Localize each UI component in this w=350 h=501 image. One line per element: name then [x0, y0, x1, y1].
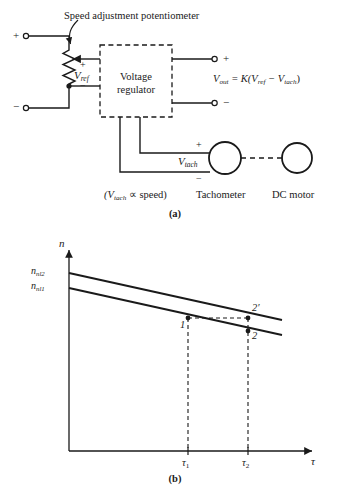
tachometer-label: Tachometer	[196, 190, 245, 201]
operating-point-2-label: 2	[252, 331, 257, 342]
note-rest-text: ∝ speed)	[126, 189, 167, 200]
panel-a-caption: (a)	[0, 209, 350, 220]
panel-b-graph	[69, 250, 312, 455]
tau2-subscript-text: 2	[246, 462, 250, 470]
operating-point-2prime	[246, 316, 251, 321]
vtach-minus-text: −	[196, 173, 202, 184]
wire-plus-to-pot	[29, 36, 69, 48]
regulator-label-line2: regulator	[117, 84, 155, 95]
operating-point-2	[246, 329, 251, 334]
input-minus-text: −	[13, 100, 19, 112]
equation-tach-subscript: tach	[284, 78, 296, 86]
x-axis-label-text: τ	[311, 455, 315, 467]
point-2prime-text: 2′	[252, 302, 260, 313]
output-minus-terminal	[212, 100, 217, 105]
dc-motor-label: DC motor	[272, 190, 314, 201]
output-plus-terminal	[212, 56, 217, 61]
potentiometer-annotation-text: Speed adjustment potentiometer	[64, 10, 199, 21]
input-plus-text: +	[13, 29, 19, 41]
point-2-text: 2	[252, 330, 257, 341]
y-tick-label-nl1: nnl1	[31, 281, 45, 292]
nl1-subscript-text: nl1	[36, 285, 45, 292]
vref-minus-text: −	[80, 80, 86, 91]
output-minus-text: −	[223, 96, 229, 108]
wire-minus-to-pot	[29, 84, 69, 108]
y-axis-label: n	[59, 238, 65, 249]
note-subscript-text: tach	[114, 194, 126, 202]
equation-equals-k: = K(V	[229, 73, 258, 84]
dc-motor-label-text: DC motor	[272, 189, 314, 200]
panel-b-caption: (b)	[0, 474, 350, 485]
tachometer-label-text: Tachometer	[196, 189, 245, 200]
output-plus-label: +	[223, 53, 229, 64]
panel-a-circuit	[23, 20, 312, 174]
x-axis-label: τ	[311, 456, 315, 467]
operating-point-1-label: 1	[180, 320, 185, 331]
y-tick-label-nl2: nnl2	[31, 266, 45, 277]
equation-close-paren: )	[296, 73, 300, 84]
x-tick-label-tau2: τ2	[242, 458, 249, 470]
vtach-label: Vtach	[178, 156, 198, 168]
vtach-minus-sign: −	[196, 174, 202, 184]
point-1-text: 1	[180, 319, 185, 330]
vtach-subscript-text: tach	[185, 160, 198, 169]
panel-a-caption-text: (a)	[169, 208, 181, 219]
speed-torque-line-nl1	[69, 288, 282, 335]
y-axis-label-text: n	[59, 237, 65, 249]
panel-b-caption-text: (b)	[169, 473, 182, 484]
vtach-plus-text: +	[196, 139, 202, 150]
note-open-text: (V	[104, 189, 114, 200]
operating-point-2prime-label: 2′	[252, 303, 260, 314]
annotation-leader-line	[69, 20, 78, 44]
regulator-label-line1: Voltage	[120, 71, 152, 82]
input-minus-terminal	[23, 105, 28, 110]
voltage-regulator-label: Voltage regulator	[100, 70, 172, 96]
equation-vout-subscript: out	[219, 78, 228, 86]
input-minus-label: −	[13, 101, 19, 112]
input-plus-label: +	[13, 30, 19, 41]
tachometer-symbol	[209, 142, 241, 174]
nl2-subscript-text: nl2	[36, 270, 45, 277]
output-equation: Vout = K(Vref − Vtach)	[213, 74, 300, 86]
figure-container: Speed adjustment potentiometer + − + Vre…	[0, 0, 350, 501]
potentiometer-annotation-label: Speed adjustment potentiometer	[64, 11, 199, 22]
equation-minus-v: − V	[265, 73, 284, 84]
output-minus-label: −	[223, 97, 229, 108]
vref-minus-sign: −	[80, 81, 86, 91]
input-plus-terminal	[23, 33, 28, 38]
vtach-symbol-text: V	[178, 155, 185, 167]
operating-point-1	[186, 316, 191, 321]
output-plus-text: +	[223, 52, 229, 64]
speed-torque-line-nl2	[69, 273, 282, 320]
vtach-plus-sign: +	[196, 140, 202, 150]
tau1-subscript-text: 1	[186, 462, 190, 470]
dc-motor-symbol	[282, 143, 312, 173]
x-tick-label-tau1: τ1	[182, 458, 189, 470]
vtach-proportional-note: (Vtach ∝ speed)	[104, 190, 167, 202]
